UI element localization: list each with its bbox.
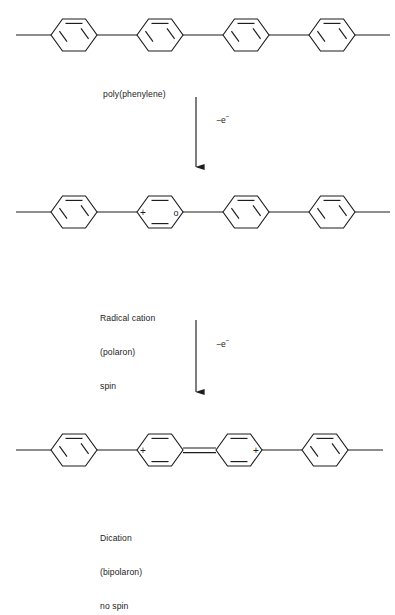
charge-plus-label-2: +	[253, 445, 259, 456]
charge-plus-label: +	[140, 207, 146, 218]
structure-polaron-radical-cation: + o	[16, 196, 390, 228]
ring-4-aromatic	[302, 434, 348, 466]
ring-3-aromatic	[223, 196, 269, 228]
annotation-electron-loss-1-text: −e	[216, 115, 226, 125]
label-bipolaron-line-2: (bipolaron)	[100, 567, 142, 578]
label-polaron-line-2: (polaron)	[100, 347, 155, 358]
annotation-electron-loss-2-text: −e	[216, 339, 226, 349]
label-bipolaron-line-3: no spin	[100, 601, 142, 612]
structure-neutral-polyphenylene	[16, 19, 390, 51]
ring-4-aromatic	[309, 19, 355, 51]
ring-2-aromatic	[137, 19, 183, 51]
label-polaron-block: Radical cation (polaron) spin	[100, 291, 155, 414]
ring-1-aromatic	[51, 196, 97, 228]
label-bipolaron-block: Dication (bipolaron) no spin	[100, 511, 142, 615]
annotation-electron-loss-2-superscript: −	[226, 337, 230, 344]
radical-dot-label: o	[173, 208, 178, 218]
annotation-electron-loss-2: −e−	[216, 337, 230, 349]
label-poly-phenylene: poly(phenylene)	[103, 89, 166, 100]
ring-1-aromatic	[51, 434, 97, 466]
label-polaron-line-1: Radical cation	[100, 313, 155, 324]
structure-bipolaron-dication: + +	[16, 434, 383, 466]
annotation-electron-loss-1: −e−	[216, 113, 230, 125]
ring-1-aromatic	[51, 19, 97, 51]
label-polaron-line-3: spin	[100, 381, 155, 392]
label-bipolaron-line-1: Dication	[100, 533, 142, 544]
annotation-electron-loss-1-superscript: −	[226, 113, 230, 120]
ring-4-aromatic	[309, 196, 355, 228]
charge-plus-label-1: +	[140, 445, 146, 456]
ring-3-aromatic	[223, 19, 269, 51]
